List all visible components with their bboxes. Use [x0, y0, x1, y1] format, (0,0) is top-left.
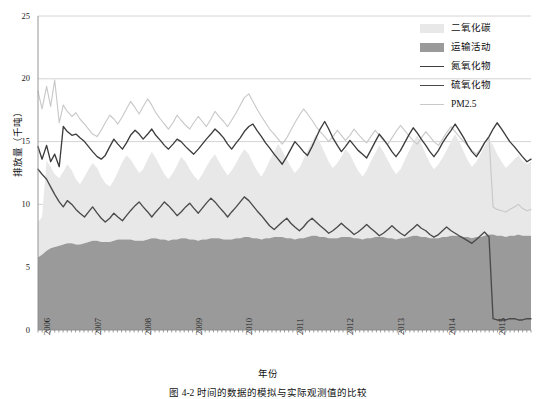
- legend-swatch-2: [420, 43, 444, 52]
- y-tick-label: 10: [4, 199, 30, 209]
- legend-label-1: 二氧化碳: [451, 24, 491, 34]
- x-tick-label: 2007: [93, 318, 103, 335]
- legend-item-3[interactable]: 氮氧化物: [420, 57, 532, 76]
- x-tick-label: 2008: [143, 318, 153, 335]
- x-axis-title: 年份: [0, 366, 536, 380]
- y-tick-label: 20: [4, 73, 30, 83]
- y-tick-label: 5: [4, 262, 30, 272]
- x-tick-label: 2015: [497, 318, 507, 335]
- legend-swatch-5: [420, 104, 444, 105]
- x-tick-label: 2013: [396, 318, 406, 335]
- y-tick-label: 0: [4, 325, 30, 335]
- legend-label-2: 运输活动: [451, 43, 491, 53]
- x-tick-label: 2009: [194, 318, 204, 335]
- y-tick-label: 25: [4, 11, 30, 21]
- legend-label-3: 氮氧化物: [451, 62, 491, 72]
- legend-item-5[interactable]: PM2.5: [420, 95, 532, 114]
- legend-label-5: PM2.5: [451, 100, 477, 110]
- x-tick-label: 2014: [447, 318, 457, 335]
- legend-swatch-3: [420, 66, 444, 67]
- x-tick-label: 2011: [295, 318, 305, 335]
- legend-label-4: 硫氧化物: [451, 81, 491, 91]
- legend-item-4[interactable]: 硫氧化物: [420, 76, 532, 95]
- legend-swatch-1: [420, 24, 444, 33]
- x-tick-label: 2012: [345, 318, 355, 335]
- legend-swatch-4: [420, 85, 444, 86]
- chart-legend: 二氧化碳运输活动氮氧化物硫氧化物PM2.5: [420, 19, 532, 114]
- legend-item-2[interactable]: 运输活动: [420, 38, 532, 57]
- x-tick-label: 2006: [42, 318, 52, 335]
- legend-item-1[interactable]: 二氧化碳: [420, 19, 532, 38]
- figure-caption: 图 4-2 时间的数据的模拟与实际观测值的比较: [0, 385, 536, 399]
- y-tick-label: 15: [4, 136, 30, 146]
- x-tick-label: 2010: [244, 318, 254, 335]
